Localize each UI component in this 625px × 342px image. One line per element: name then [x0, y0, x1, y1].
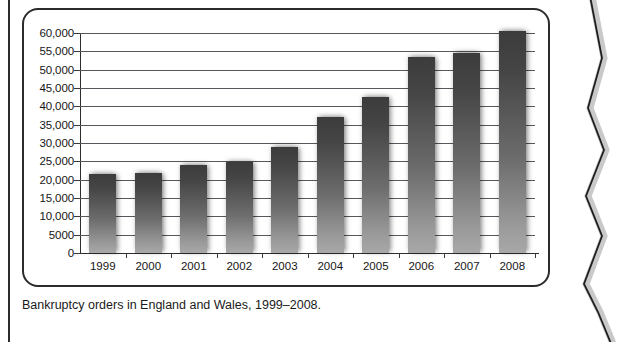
y-axis-tick-label: 10,000: [39, 210, 74, 222]
bar-slot: [217, 33, 263, 253]
bar[interactable]: [271, 147, 298, 253]
x-axis-tick-mark: [490, 253, 491, 258]
x-axis-tick-label: 2003: [272, 260, 298, 272]
x-axis-tick-mark: [353, 253, 354, 258]
x-axis-tick-mark: [308, 253, 309, 258]
figure-caption: Bankruptcy orders in England and Wales, …: [22, 298, 321, 312]
bar[interactable]: [499, 31, 526, 253]
bar-slot: [444, 33, 490, 253]
y-axis-tick-mark: [74, 253, 80, 254]
bar[interactable]: [226, 162, 253, 253]
y-axis-tick-label: 35,000: [39, 119, 74, 131]
page-margin-rule: [8, 0, 10, 342]
x-axis-tick-mark: [535, 253, 536, 258]
plot-area: [80, 33, 535, 253]
x-axis-tick-label: 2005: [363, 260, 389, 272]
bar-slot: [308, 33, 354, 253]
y-axis-tick-label: 30,000: [39, 137, 74, 149]
x-axis-tick-mark: [217, 253, 218, 258]
x-axis-tick-mark: [171, 253, 172, 258]
x-axis-tick-label: 2002: [226, 260, 252, 272]
bar-slot: [171, 33, 217, 253]
bar-slot: [399, 33, 445, 253]
x-axis-tick-label: 2001: [181, 260, 207, 272]
bar[interactable]: [317, 117, 344, 253]
bar-series: [80, 33, 535, 253]
y-axis-tick-label: 50,000: [39, 64, 74, 76]
bar-chart: 0500010,00015,00020,00025,00030,00035,00…: [22, 8, 550, 287]
bar[interactable]: [453, 53, 480, 253]
bar-slot: [490, 33, 536, 253]
y-axis-tick-label: 15,000: [39, 192, 74, 204]
x-axis-line: [74, 253, 539, 254]
x-axis-tick-mark: [444, 253, 445, 258]
bar[interactable]: [180, 165, 207, 253]
y-axis-tick-label: 60,000: [39, 27, 74, 39]
bar-slot: [126, 33, 172, 253]
torn-page-edge: [570, 0, 625, 342]
x-axis-tick-label: 1999: [90, 260, 116, 272]
x-axis-tick-mark: [126, 253, 127, 258]
bar[interactable]: [408, 57, 435, 253]
bar[interactable]: [362, 97, 389, 253]
bar-slot: [80, 33, 126, 253]
bar-slot: [353, 33, 399, 253]
bar[interactable]: [89, 174, 116, 253]
x-axis-tick-label: 2007: [454, 260, 480, 272]
x-axis-tick-label: 2006: [408, 260, 434, 272]
x-axis-tick-label: 2000: [135, 260, 161, 272]
y-axis-tick-label: 55,000: [39, 45, 74, 57]
y-axis-tick-label: 25,000: [39, 155, 74, 167]
y-axis: 0500010,00015,00020,00025,00030,00035,00…: [22, 8, 74, 287]
y-axis-tick-label: 45,000: [39, 82, 74, 94]
y-axis-tick-label: 40,000: [39, 100, 74, 112]
x-axis-tick-label: 2008: [499, 260, 525, 272]
bar-slot: [262, 33, 308, 253]
y-axis-tick-label: 5000: [49, 229, 74, 241]
x-axis-tick-mark: [262, 253, 263, 258]
x-axis-tick-label: 2004: [317, 260, 343, 272]
bar[interactable]: [135, 173, 162, 253]
x-axis-tick-mark: [399, 253, 400, 258]
y-axis-tick-label: 20,000: [39, 174, 74, 186]
